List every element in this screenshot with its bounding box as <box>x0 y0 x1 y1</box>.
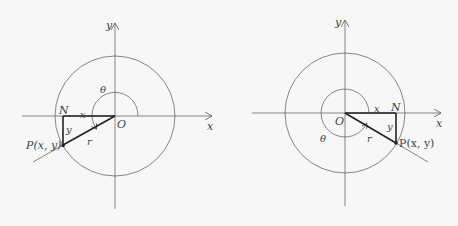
trig-diagrams: y x θ O N x y r P(x, y) y x θ O N x y r <box>0 0 458 226</box>
foot-label: N <box>58 104 69 117</box>
x-axis-label: x <box>207 120 214 133</box>
point-label: P(x, y) <box>399 137 434 150</box>
y-axis-label: y <box>105 19 113 32</box>
opposite-label: y <box>65 124 72 135</box>
origin-label: O <box>335 115 344 128</box>
adjacent-label: x <box>374 103 380 114</box>
left-diagram: y x θ O N x y r P(x, y) <box>22 19 214 209</box>
theta-label: θ <box>320 133 326 144</box>
point-label: P(x, y) <box>25 139 61 152</box>
adjacent-label: x <box>80 109 86 120</box>
theta-label: θ <box>100 84 106 95</box>
radius-label: r <box>87 136 93 147</box>
foot-label: N <box>390 101 401 114</box>
x-axis-label: x <box>436 117 443 130</box>
point-P <box>394 141 398 145</box>
y-axis-label: y <box>334 16 342 29</box>
origin-label: O <box>117 118 126 131</box>
point-P <box>61 144 65 148</box>
right-diagram: y x θ O N x y r P(x, y) <box>252 16 443 206</box>
opposite-label: y <box>386 121 393 132</box>
radius-label: r <box>367 133 373 144</box>
